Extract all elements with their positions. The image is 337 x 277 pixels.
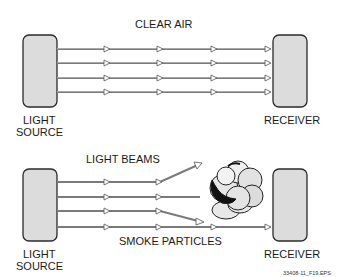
- light-source-box-top: [23, 35, 57, 107]
- beam-1-deflected-up: [57, 162, 202, 185]
- panel-smoke: LIGHT BEAMS: [16, 153, 320, 272]
- light-source-label-line2: SOURCE: [16, 126, 63, 138]
- arrow-head: [104, 89, 110, 95]
- arrow-head: [157, 75, 163, 81]
- figure-id: 33408-11_F19.EPS: [283, 270, 331, 276]
- arrow-head: [196, 218, 204, 225]
- receiver-label-top: RECEIVER: [264, 114, 320, 126]
- arrow-head: [265, 89, 271, 95]
- light-source-label-line1: LIGHT: [23, 114, 56, 126]
- beam-3: [57, 75, 271, 81]
- arrow-head: [156, 194, 162, 200]
- arrow-head: [265, 60, 271, 66]
- clear-air-title: CLEAR AIR: [135, 18, 193, 30]
- arrow-head: [156, 208, 162, 214]
- beam-1: [57, 46, 271, 52]
- arrow-head: [157, 89, 163, 95]
- arrow-head: [211, 89, 217, 95]
- panel-clear-air: CLEAR AIR: [16, 18, 320, 138]
- smoke-detector-diagram: CLEAR AIR: [0, 0, 337, 277]
- beam-2-blocked: [57, 194, 200, 200]
- light-beams-label: LIGHT BEAMS: [86, 153, 160, 165]
- arrow-head: [194, 162, 202, 169]
- arrow-head: [211, 60, 217, 66]
- receiver-box-top: [273, 35, 307, 107]
- smoke-cloud-icon: [210, 161, 263, 219]
- smoke-particles-label: SMOKE PARTICLES: [119, 235, 222, 247]
- arrow-head: [104, 208, 110, 214]
- arrow-head: [211, 224, 217, 230]
- arrow-head: [265, 224, 271, 230]
- arrow-head: [104, 75, 110, 81]
- arrow-head: [156, 179, 162, 185]
- arrow-head: [157, 46, 163, 52]
- arrow-head: [104, 60, 110, 66]
- receiver-box-bottom: [273, 169, 307, 241]
- beam-4-through: [57, 224, 271, 230]
- arrow-head: [157, 60, 163, 66]
- arrow-head: [104, 224, 110, 230]
- arrow-head: [104, 46, 110, 52]
- beam-4: [57, 89, 271, 95]
- arrow-head: [104, 179, 110, 185]
- beam-3-deflected-down: [57, 208, 204, 225]
- beam-2: [57, 60, 271, 66]
- arrow-head: [265, 75, 271, 81]
- light-source-label-line2-bottom: SOURCE: [16, 260, 63, 272]
- arrow-head: [211, 75, 217, 81]
- beams-top: [57, 46, 271, 95]
- receiver-label-bottom: RECEIVER: [264, 248, 320, 260]
- arrow-head: [265, 46, 271, 52]
- arrow-head: [104, 194, 110, 200]
- light-source-box-bottom: [23, 169, 57, 241]
- arrow-head: [211, 46, 217, 52]
- arrow-head: [156, 224, 162, 230]
- light-source-label-line1-bottom: LIGHT: [23, 248, 56, 260]
